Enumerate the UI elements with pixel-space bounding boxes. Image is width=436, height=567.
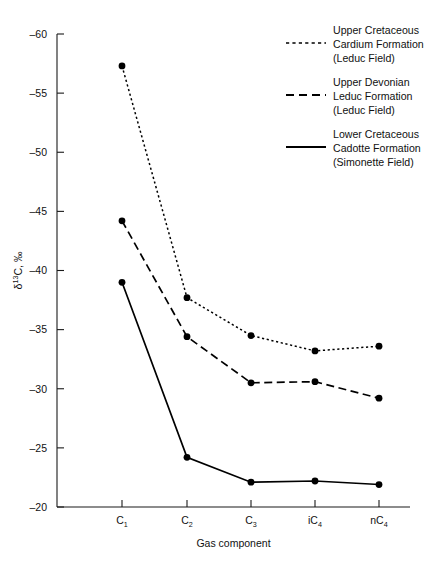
data-point-marker[interactable] bbox=[376, 343, 383, 350]
axis-titles: Gas componentδ13C, ‰ bbox=[11, 251, 271, 549]
legend-label-3: Cadotte Formation bbox=[333, 142, 421, 154]
series-line-2 bbox=[122, 221, 379, 398]
data-series-group bbox=[119, 63, 383, 488]
y-axis-tick-label: –45 bbox=[29, 205, 47, 217]
y-axis-tick-label: –60 bbox=[29, 28, 47, 40]
chart-figure: –60–55–50–45–40–35–30–25–20 C1C2C3iC4nC4… bbox=[0, 0, 436, 567]
data-point-marker[interactable] bbox=[248, 332, 255, 339]
data-point-marker[interactable] bbox=[312, 378, 319, 385]
x-axis: C1C2C3iC4nC4 bbox=[57, 500, 410, 529]
y-axis-tick-label: –55 bbox=[29, 87, 47, 99]
data-point-marker[interactable] bbox=[119, 217, 126, 224]
legend-label-3: (Simonette Field) bbox=[333, 156, 414, 168]
legend-label-1: Upper Cretaceous bbox=[333, 24, 419, 36]
data-point-marker[interactable] bbox=[248, 379, 255, 386]
chart-legend: Upper CretaceousCardium Formation(Leduc … bbox=[286, 24, 424, 168]
data-point-marker[interactable] bbox=[312, 478, 319, 485]
data-point-marker[interactable] bbox=[184, 294, 191, 301]
data-point-marker[interactable] bbox=[376, 481, 383, 488]
x-axis-title: Gas component bbox=[196, 537, 270, 549]
legend-label-2: Upper Devonian bbox=[333, 76, 410, 88]
legend-label-2: Leduc Formation bbox=[333, 90, 413, 102]
y-axis-tick-label: –40 bbox=[29, 264, 47, 276]
x-axis-tick-label: C2 bbox=[181, 514, 193, 529]
data-point-marker[interactable] bbox=[119, 279, 126, 286]
y-axis-tick-label: –30 bbox=[29, 383, 47, 395]
x-axis-tick-label: C3 bbox=[245, 514, 257, 529]
legend-label-1: (Leduc Field) bbox=[333, 52, 395, 64]
data-point-marker[interactable] bbox=[184, 333, 191, 340]
data-point-marker[interactable] bbox=[119, 63, 126, 70]
y-axis-title: δ13C, ‰ bbox=[11, 251, 24, 289]
data-point-marker[interactable] bbox=[312, 348, 319, 355]
data-point-marker[interactable] bbox=[376, 395, 383, 402]
y-axis: –60–55–50–45–40–35–30–25–20 bbox=[29, 28, 64, 513]
legend-label-1: Cardium Formation bbox=[333, 38, 424, 50]
data-point-marker[interactable] bbox=[248, 479, 255, 486]
y-axis-tick-label: –25 bbox=[29, 442, 47, 454]
data-point-marker[interactable] bbox=[184, 454, 191, 461]
x-axis-tick-label: iC4 bbox=[308, 514, 322, 529]
legend-label-3: Lower Cretaceous bbox=[333, 128, 419, 140]
x-axis-tick-label: C1 bbox=[116, 514, 128, 529]
legend-label-2: (Leduc Field) bbox=[333, 104, 395, 116]
y-axis-tick-label: –50 bbox=[29, 146, 47, 158]
y-axis-tick-label: –20 bbox=[29, 501, 47, 513]
x-axis-tick-label: nC4 bbox=[370, 514, 387, 529]
y-axis-tick-label: –35 bbox=[29, 323, 47, 335]
isotope-line-chart: –60–55–50–45–40–35–30–25–20 C1C2C3iC4nC4… bbox=[0, 0, 436, 567]
